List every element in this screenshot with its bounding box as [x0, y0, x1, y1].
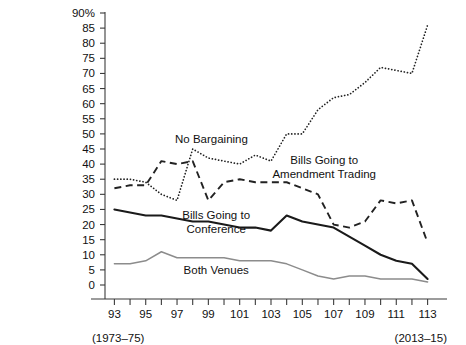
x-tick-label: 101	[230, 308, 249, 320]
series-lines	[114, 25, 427, 282]
y-tick-label: 0	[89, 279, 95, 291]
series-line-0	[114, 25, 427, 200]
x-tick-label: 97	[171, 308, 184, 320]
y-tick-label: 60	[82, 98, 95, 110]
era-annotations: (1973–75)(2013–15)	[92, 332, 447, 344]
y-tick-label: 30	[82, 188, 95, 200]
y-tick-label: 80	[82, 37, 95, 49]
y-tick-label: 10	[82, 249, 95, 261]
x-tick-label: 93	[108, 308, 121, 320]
series-label-2-line2: Conference	[186, 223, 245, 235]
x-axis: 93959799101103105107109111113	[91, 299, 447, 320]
series-line-3	[114, 252, 427, 282]
y-tick-label: 40	[82, 158, 95, 170]
y-tick-label: 20	[82, 219, 95, 231]
y-tick-label: 15	[82, 234, 95, 246]
y-tick-label: 70	[82, 67, 95, 79]
line-chart: 051015202530354045505560657075808590% 93…	[0, 0, 466, 345]
y-tick-label: 90%	[72, 7, 95, 19]
y-axis: 051015202530354045505560657075808590%	[72, 7, 105, 299]
series-label-1-line2: Amendment Trading	[272, 168, 376, 180]
y-tick-label: 25	[82, 203, 95, 215]
x-tick-label: 107	[324, 308, 343, 320]
x-tick-label: 111	[388, 308, 405, 320]
series-label-3: Both Venues	[184, 264, 249, 276]
x-tick-label: 95	[139, 308, 152, 320]
series-label-2: Bills Going to	[182, 209, 250, 221]
x-tick-label: 109	[355, 308, 374, 320]
y-tick-label: 65	[82, 83, 95, 95]
era-label-start: (1973–75)	[92, 332, 145, 344]
y-tick-label: 85	[82, 22, 95, 34]
era-label-end: (2013–15)	[395, 332, 448, 344]
y-tick-label: 55	[82, 113, 95, 125]
y-tick-label: 5	[89, 264, 95, 276]
series-label-0: No Bargaining	[175, 133, 248, 145]
y-tick-label: 45	[82, 143, 95, 155]
y-tick-label: 50	[82, 128, 95, 140]
x-tick-label: 99	[202, 308, 215, 320]
y-tick-label: 75	[82, 52, 95, 64]
y-tick-label: 35	[82, 173, 95, 185]
series-label-1: Bills Going to	[290, 154, 358, 166]
x-tick-label: 105	[293, 308, 312, 320]
chart-container: 051015202530354045505560657075808590% 93…	[0, 0, 466, 345]
x-tick-label: 113	[418, 308, 436, 320]
series-line-2	[114, 209, 427, 279]
x-tick-label: 103	[261, 308, 280, 320]
